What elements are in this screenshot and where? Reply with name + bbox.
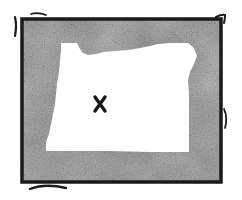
brush-stroke-right-side: [224, 109, 226, 128]
oregon-state-shape: [46, 43, 197, 152]
brush-stroke-bottom-left: [30, 186, 66, 189]
brush-stroke-top-left-vertical: [15, 17, 16, 36]
oregon-map-illustration: Oregon state outline: [0, 0, 242, 200]
brush-stroke-top-left-horizontal: [31, 13, 46, 15]
illustration-canvas: [0, 0, 242, 200]
